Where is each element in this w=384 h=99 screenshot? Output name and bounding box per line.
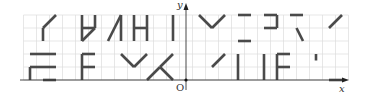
y-axis-label: y: [177, 0, 183, 10]
origin-label: O: [176, 82, 184, 93]
line-segment: [297, 28, 304, 41]
x-axis-arrow-icon: [342, 78, 349, 83]
x-axis-label: x: [339, 83, 345, 94]
y-axis-arrow-icon: [184, 3, 189, 10]
coordinate-grid-diagram: [0, 0, 384, 99]
origin-point: [184, 78, 187, 81]
